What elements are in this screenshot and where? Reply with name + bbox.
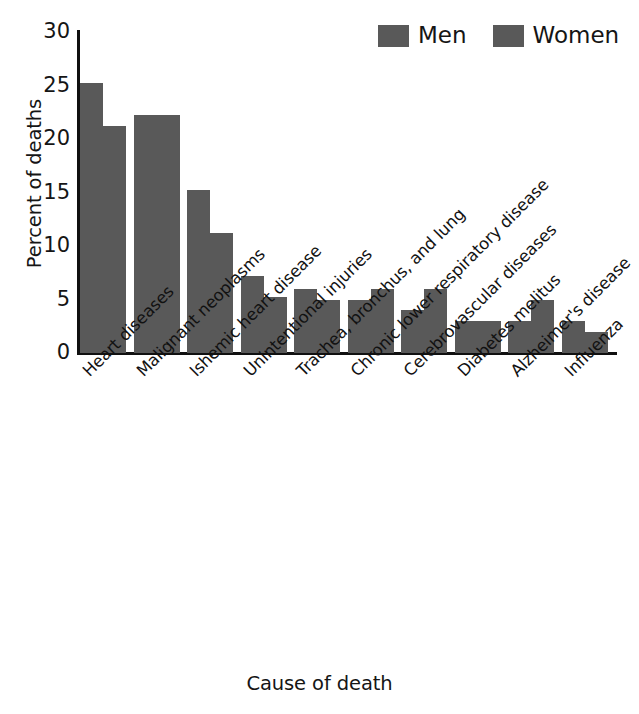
x-axis-tick-labels: Heart diseasesMalignant neoplasmsIshemic… (0, 0, 639, 714)
bar-chart: Percent of deaths 051015202530 MenWomen … (0, 0, 639, 714)
x-axis-tick-label: Chronic lower respiratory disease (347, 175, 552, 380)
x-axis-title: Cause of death (0, 672, 639, 695)
x-axis-tick-label: Heart diseases (79, 282, 178, 381)
